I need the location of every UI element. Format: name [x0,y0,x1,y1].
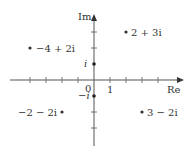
point-i-dot [92,62,96,66]
point-label: 2 + 3i [131,27,162,38]
real-axis-arrow-icon [177,77,184,83]
point-label: 3 − 2i [147,107,178,118]
neg-i-label: −i [78,90,90,101]
point-2-plus-3i: 2 + 3i [124,27,161,38]
imaginary-axis-arrow-icon [91,14,97,21]
re-axis-label: Re [167,84,181,95]
real-axis [10,77,184,83]
point-neg-i-dot [92,94,96,98]
i-label: i [84,58,87,69]
im-axis-label: Im [78,11,92,22]
point-neg2-minus-2i: −2 − 2i [18,107,64,118]
x-unit-label: 1 [107,84,113,95]
point-neg4-plus-2i: −4 + 2i [28,43,75,54]
point-label: −2 − 2i [18,107,57,118]
point-label: −4 + 2i [36,43,75,54]
point-3-minus-2i: 3 − 2i [140,107,177,118]
complex-plane-diagram: Im Re 0 1 i −i 2 + 3i −4 + 2i −2 − 2i 3 … [0,0,191,150]
